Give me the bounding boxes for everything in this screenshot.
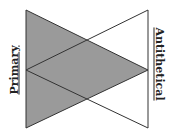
- primary-triangle: [26, 10, 148, 128]
- primary-label: Primary: [8, 45, 21, 94]
- interlocking-triangles-diagram: [0, 0, 174, 140]
- antithetical-label: Antithetical: [153, 27, 166, 100]
